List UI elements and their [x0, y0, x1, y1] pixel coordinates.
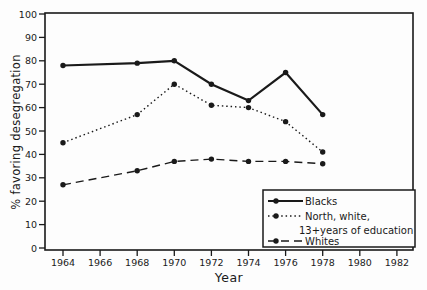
data-point-blacks — [283, 70, 288, 75]
x-tick-label: 1982 — [385, 257, 409, 268]
data-point-north-white — [209, 103, 214, 108]
data-point-blacks — [60, 63, 65, 68]
y-axis-title: % favoring desegregation — [9, 52, 23, 212]
legend-marker-blacks — [273, 198, 278, 203]
legend-label-blacks: Blacks — [305, 196, 337, 207]
y-tick-label: 30 — [25, 172, 37, 183]
data-point-blacks — [320, 112, 325, 117]
legend-label-north-white: 13+years of education — [299, 225, 413, 236]
data-point-north-white — [283, 119, 288, 124]
x-tick-label: 1968 — [125, 257, 149, 268]
x-tick-label: 1974 — [236, 257, 260, 268]
data-point-north-white — [320, 149, 325, 154]
data-point-blacks — [209, 82, 214, 87]
x-tick-label: 1970 — [162, 257, 186, 268]
x-tick-label: 1980 — [348, 257, 372, 268]
data-point-whites — [320, 161, 325, 166]
x-tick-label: 1966 — [88, 257, 112, 268]
data-point-whites — [135, 168, 140, 173]
legend-label-whites: Whites — [305, 236, 339, 247]
data-point-whites — [209, 156, 214, 161]
x-tick-label: 1976 — [274, 257, 298, 268]
x-tick-label: 1978 — [311, 257, 335, 268]
y-tick-label: 60 — [25, 102, 37, 113]
data-point-whites — [60, 182, 65, 187]
line-chart-figure: 0102030405060708090100196419661968197019… — [0, 0, 427, 290]
series-line-north-white — [63, 84, 323, 152]
data-point-whites — [246, 159, 251, 164]
data-point-whites — [283, 159, 288, 164]
data-point-north-white — [172, 82, 177, 87]
series-line-blacks — [63, 61, 323, 115]
y-tick-label: 40 — [25, 149, 37, 160]
data-point-north-white — [135, 112, 140, 117]
x-tick-label: 1972 — [199, 257, 223, 268]
data-point-blacks — [246, 98, 251, 103]
chart-canvas: 0102030405060708090100196419661968197019… — [0, 0, 427, 290]
y-tick-label: 100 — [19, 9, 37, 20]
data-point-blacks — [172, 58, 177, 63]
x-axis-title: Year — [45, 270, 413, 285]
data-point-north-white — [60, 140, 65, 145]
data-point-north-white — [246, 105, 251, 110]
y-tick-label: 80 — [25, 55, 37, 66]
legend-label-north-white: North, white, — [305, 211, 370, 222]
y-tick-label: 20 — [25, 196, 37, 207]
legend-marker-north-white — [273, 213, 278, 218]
y-tick-label: 90 — [25, 32, 37, 43]
y-tick-label: 0 — [31, 243, 37, 254]
y-tick-label: 50 — [25, 126, 37, 137]
data-point-whites — [172, 159, 177, 164]
legend-marker-whites — [273, 238, 278, 243]
data-point-blacks — [135, 60, 140, 65]
y-tick-label: 70 — [25, 79, 37, 90]
y-tick-label: 10 — [25, 219, 37, 230]
x-tick-label: 1964 — [51, 257, 75, 268]
